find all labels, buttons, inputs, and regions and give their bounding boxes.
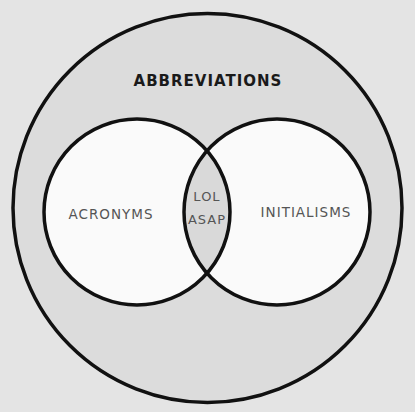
acronyms-label: ACRONYMS <box>69 206 154 222</box>
venn-diagram: ABBREVIATIONS ACRONYMS INITIALISMS LOL A… <box>0 0 415 412</box>
intersection-item: ASAP <box>188 212 226 227</box>
intersection-item: LOL <box>193 189 220 204</box>
initialisms-label: INITIALISMS <box>261 204 352 220</box>
outer-label: ABBREVIATIONS <box>134 72 283 90</box>
